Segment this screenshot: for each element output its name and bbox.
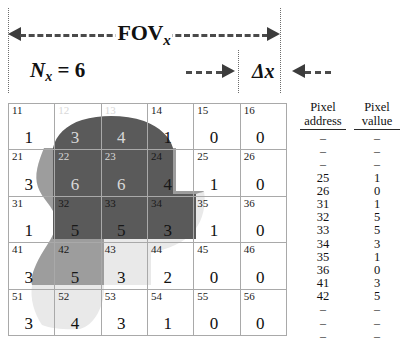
lookup-table-row: 425 <box>296 290 404 303</box>
pixel-cell-address: 33 <box>105 197 116 210</box>
pixel-cell-value: 0 <box>241 268 280 287</box>
lookup-header-value-line2: vallue <box>350 114 404 128</box>
pixel-cell-12[interactable]: 123 <box>55 104 101 150</box>
pixel-cell-value: 6 <box>102 175 141 194</box>
pixel-cell-value: 0 <box>241 175 280 194</box>
pixel-cell-address: 46 <box>244 243 255 256</box>
arrow-right-icon <box>267 27 280 41</box>
pixel-cell-23[interactable]: 236 <box>101 150 147 196</box>
lookup-table-row: –– <box>296 145 404 158</box>
pixel-cell-54[interactable]: 541 <box>147 289 193 335</box>
lookup-cell-value: – <box>350 317 404 330</box>
pixel-cell-value: 0 <box>241 314 280 333</box>
nx-equals-value: = 6 <box>52 58 85 82</box>
pixel-grid-row: 111123134141150160 <box>9 104 287 150</box>
lookup-table-row: –– <box>296 317 404 330</box>
pixel-cell-address: 22 <box>58 150 69 163</box>
pixel-cell-42[interactable]: 425 <box>55 243 101 289</box>
pixel-cell-value: 3 <box>148 221 187 240</box>
pixel-cell-22[interactable]: 226 <box>55 150 101 196</box>
pixel-cell-31[interactable]: 311 <box>9 196 55 242</box>
pixel-cell-36[interactable]: 360 <box>240 196 286 242</box>
pixel-cell-address: 42 <box>58 243 69 256</box>
pixel-cell-51[interactable]: 513 <box>9 289 55 335</box>
lookup-cell-address: – <box>296 317 350 330</box>
pixel-lookup-table: Pixel address Pixel vallue ––––––2512603… <box>296 100 404 340</box>
pixel-cell-56[interactable]: 560 <box>240 289 286 335</box>
pixel-cell-55[interactable]: 550 <box>194 289 240 335</box>
pixel-cell-address: 56 <box>244 290 255 303</box>
pixel-cell-24[interactable]: 244 <box>147 150 193 196</box>
fov-label: FOVx <box>115 20 172 53</box>
pixel-cell-address: 51 <box>12 290 23 303</box>
nx-label: Nx = 6 <box>30 56 85 91</box>
pixel-cell-value: 1 <box>148 128 187 147</box>
fov-dash-right <box>158 34 268 37</box>
lookup-table-row: 311 <box>296 198 404 211</box>
pixel-cell-address: 41 <box>12 243 23 256</box>
pixel-grid-row: 413425433442450460 <box>9 243 287 289</box>
pixel-cell-address: 11 <box>12 104 23 117</box>
pixel-cell-address: 34 <box>151 197 162 210</box>
pixel-cell-52[interactable]: 524 <box>55 289 101 335</box>
pixel-cell-address: 24 <box>151 150 162 163</box>
pixel-cell-value: 1 <box>148 314 187 333</box>
pixel-cell-address: 14 <box>151 104 162 117</box>
pixel-cell-15[interactable]: 150 <box>194 104 240 150</box>
pixel-cell-address: 35 <box>197 197 208 210</box>
pixel-cell-value: 0 <box>194 268 233 287</box>
lookup-table-row: 360 <box>296 264 404 277</box>
pixel-cell-44[interactable]: 442 <box>147 243 193 289</box>
pixel-cell-35[interactable]: 351 <box>194 196 240 242</box>
pixel-cell-value: 0 <box>194 128 233 147</box>
pixel-cell-address: 45 <box>197 243 208 256</box>
lookup-table-row: 351 <box>296 251 404 264</box>
lookup-cell-value: 1 <box>350 251 404 264</box>
pixel-cell-value: 0 <box>241 128 280 147</box>
pixel-cell-value: 4 <box>102 128 141 147</box>
pixel-cell-43[interactable]: 433 <box>101 243 147 289</box>
pixel-cell-46[interactable]: 460 <box>240 243 286 289</box>
pixel-cell-33[interactable]: 335 <box>101 196 147 242</box>
lookup-header-rule-left <box>300 129 346 130</box>
pixel-cell-value: 0 <box>194 314 233 333</box>
pixel-cell-16[interactable]: 160 <box>240 104 286 150</box>
lookup-header-address-line2: address <box>296 114 350 128</box>
pixel-cell-34[interactable]: 343 <box>147 196 193 242</box>
pixel-cell-11[interactable]: 111 <box>9 104 55 150</box>
pixel-cell-13[interactable]: 134 <box>101 104 147 150</box>
lookup-header-address: Pixel address <box>296 100 350 130</box>
pixel-grid-table: 1111231341411501602132262362442512603113… <box>8 103 287 336</box>
lookup-table-row: –– <box>296 158 404 171</box>
pixel-cell-32[interactable]: 325 <box>55 196 101 242</box>
pixel-cell-21[interactable]: 213 <box>9 150 55 196</box>
lookup-table-row: 260 <box>296 185 404 198</box>
pixel-cell-address: 26 <box>244 150 255 163</box>
pixel-cell-41[interactable]: 413 <box>9 243 55 289</box>
lookup-cell-value: 3 <box>350 238 404 251</box>
pixel-cell-address: 52 <box>58 290 69 303</box>
pixel-cell-26[interactable]: 260 <box>240 150 286 196</box>
pixel-cell-value: 2 <box>148 268 187 287</box>
pixel-cell-45[interactable]: 450 <box>194 243 240 289</box>
pixel-cell-value: 1 <box>9 128 48 147</box>
pixel-cell-value: 1 <box>194 221 233 240</box>
pixel-cell-address: 13 <box>105 104 116 117</box>
figure-canvas: FOVx Nx = 6 Δx 1111231341411501602132262 <box>0 0 410 348</box>
pixel-cell-address: 55 <box>197 290 208 303</box>
pixel-cell-25[interactable]: 251 <box>194 150 240 196</box>
lookup-cell-address: 34 <box>296 238 350 251</box>
pixel-cell-address: 15 <box>197 104 208 117</box>
pixel-cell-value: 3 <box>102 268 141 287</box>
fov-dash-left <box>20 34 130 37</box>
pixel-cell-value: 5 <box>55 268 94 287</box>
pixel-cell-address: 12 <box>58 104 69 117</box>
nx-delta-row: Nx = 6 Δx <box>8 56 280 90</box>
pixel-grid: 1111231341411501602132262362442512603113… <box>8 103 280 330</box>
lookup-cell-address: 33 <box>296 224 350 237</box>
fov-label-text: FOV <box>117 20 163 45</box>
lookup-table-row: 335 <box>296 224 404 237</box>
pixel-cell-53[interactable]: 533 <box>101 289 147 335</box>
lookup-cell-address: 35 <box>296 251 350 264</box>
pixel-cell-14[interactable]: 141 <box>147 104 193 150</box>
